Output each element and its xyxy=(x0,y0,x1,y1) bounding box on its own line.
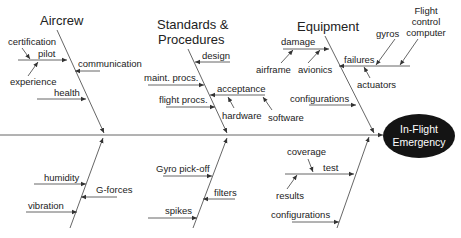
bone-signal xyxy=(193,138,227,228)
cause-design: design xyxy=(202,50,230,61)
cause-certification: certification xyxy=(8,36,56,47)
effect-label-line1: In-Flight xyxy=(400,123,438,135)
branch-environment: humidity G-forces vibration xyxy=(26,138,133,228)
cause-vibration: vibration xyxy=(28,200,64,211)
category-standards-line1: Standards & xyxy=(157,17,229,32)
bone-results xyxy=(287,175,297,189)
bone-certification xyxy=(22,48,30,59)
cause-avionics: avionics xyxy=(298,64,333,75)
effect-node: In-Flight Emergency xyxy=(383,114,455,158)
cause-software: software xyxy=(268,112,304,123)
cause-experience: experience xyxy=(10,76,56,87)
bone-hardware xyxy=(228,97,234,108)
cause-hardware: hardware xyxy=(222,110,262,121)
cause-gyros: gyros xyxy=(376,28,399,39)
bone-flight-control-computer xyxy=(400,39,418,65)
cause-configurations: configurations xyxy=(290,93,349,104)
bone-coverage xyxy=(308,159,313,172)
bone-environment xyxy=(70,138,103,228)
bone-testing xyxy=(337,137,369,228)
bone-avionics xyxy=(308,50,320,63)
cause-testing-configurations: configurations xyxy=(271,209,330,220)
branch-signal: Gyro pick-off filters spikes xyxy=(148,138,237,228)
cause-communication: communication xyxy=(78,58,142,69)
bone-aircrew xyxy=(57,30,104,133)
cause-airframe: airframe xyxy=(256,64,291,75)
category-equipment: Equipment xyxy=(297,19,360,34)
branch-standards: Standards & Procedures design maint. pro… xyxy=(144,17,304,133)
cause-health: health xyxy=(54,87,80,98)
cause-fcc-line3: computer xyxy=(406,27,446,38)
bone-airframe xyxy=(281,50,293,63)
cause-filters: filters xyxy=(214,187,237,198)
cause-spikes: spikes xyxy=(165,205,192,216)
bone-software xyxy=(263,97,272,110)
branch-aircrew: Aircrew pilot certification experience c… xyxy=(8,13,142,133)
cause-pilot: pilot xyxy=(38,48,56,59)
effect-label-line2: Emergency xyxy=(392,136,446,148)
cause-gforces: G-forces xyxy=(96,184,133,195)
bone-experience xyxy=(28,62,38,76)
branch-testing: coverage test results configurations xyxy=(271,137,369,228)
cause-test: test xyxy=(323,162,339,173)
bone-actuators xyxy=(364,67,370,78)
cause-coverage: coverage xyxy=(287,146,326,157)
category-standards-line2: Procedures xyxy=(158,32,225,47)
bone-gyros xyxy=(376,39,395,65)
cause-damage: damage xyxy=(281,36,315,47)
cause-fcc-line1: Flight xyxy=(414,5,438,16)
cause-gyro-pickoff: Gyro pick-off xyxy=(156,163,210,174)
cause-humidity: humidity xyxy=(44,172,80,183)
cause-fcc-line2: control xyxy=(412,16,441,27)
cause-flight-procs: flight procs. xyxy=(159,94,208,105)
category-aircrew: Aircrew xyxy=(40,13,84,28)
fishbone-diagram: In-Flight Emergency Aircrew pilot certif… xyxy=(0,0,461,238)
cause-maint-procs: maint. procs. xyxy=(144,72,198,83)
cause-actuators: actuators xyxy=(357,79,396,90)
cause-acceptance: acceptance xyxy=(217,83,266,94)
cause-results: results xyxy=(276,190,304,201)
cause-failures: failures xyxy=(344,54,375,65)
